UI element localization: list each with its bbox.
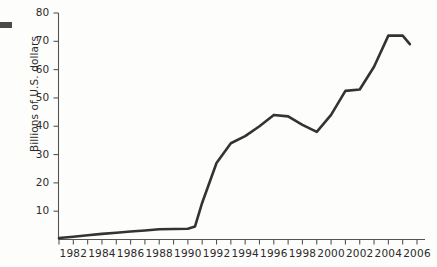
chart-figure: Billions of U.S. dollars 102030405060708… bbox=[0, 0, 437, 267]
x-axis-tick-label: 2004 bbox=[373, 247, 403, 259]
x-axis-tick-label: 1982 bbox=[58, 247, 88, 259]
x-axis-tick-label: 2000 bbox=[316, 247, 346, 259]
y-axis-tick-label: 60 bbox=[28, 63, 50, 75]
x-axis-tick-label: 1990 bbox=[173, 247, 203, 259]
x-axis-tick-label: 1986 bbox=[116, 247, 146, 259]
y-axis-tick-label: 80 bbox=[28, 6, 50, 18]
x-axis-tick-label: 1988 bbox=[144, 247, 174, 259]
x-axis-tick-label: 1992 bbox=[202, 247, 232, 259]
y-axis-tick-label: 10 bbox=[28, 204, 50, 216]
y-axis-tick-label: 30 bbox=[28, 148, 50, 160]
x-axis-tick-label: 2006 bbox=[402, 247, 432, 259]
x-axis-tick-label: 1984 bbox=[87, 247, 117, 259]
data-series-line bbox=[59, 36, 410, 238]
x-axis-tick-label: 2002 bbox=[345, 247, 375, 259]
x-axis-tick-label: 1994 bbox=[230, 247, 260, 259]
y-axis-tick-label: 50 bbox=[28, 91, 50, 103]
x-axis-ticks bbox=[59, 240, 417, 245]
x-axis-tick-label: 1996 bbox=[259, 247, 289, 259]
axis-lines bbox=[59, 13, 426, 240]
y-axis-tick-label: 40 bbox=[28, 119, 50, 131]
x-axis-tick-label: 1998 bbox=[287, 247, 317, 259]
y-axis-ticks bbox=[54, 13, 59, 211]
y-axis-tick-label: 70 bbox=[28, 34, 50, 46]
y-axis-tick-label: 20 bbox=[28, 176, 50, 188]
line-chart-plot bbox=[0, 0, 437, 267]
